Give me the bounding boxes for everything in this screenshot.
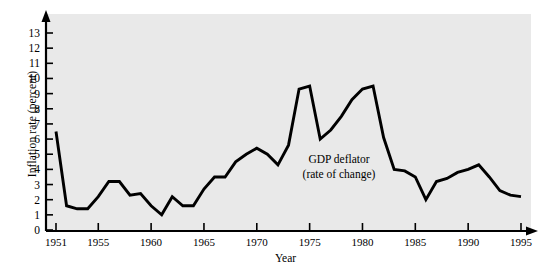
- annotation-line-2: (rate of change): [280, 167, 398, 182]
- x-axis-label-text: Year: [275, 252, 296, 264]
- x-tick-label: 1995: [510, 236, 533, 248]
- chart-svg: 012345678910111213 195119551960196519701…: [0, 0, 547, 274]
- x-tick-marks: [56, 223, 521, 231]
- inflation-chart-figure: 012345678910111213 195119551960196519701…: [0, 0, 547, 274]
- y-tick-label: 0: [34, 224, 40, 236]
- x-tick-label: 1970: [246, 236, 269, 248]
- data-series-line: [56, 86, 521, 215]
- series-annotation: GDP deflator (rate of change): [280, 152, 398, 182]
- annotation-line-1: GDP deflator: [280, 152, 398, 167]
- y-axis: [42, 10, 51, 231]
- x-axis-label: Year: [0, 252, 547, 264]
- x-tick-label: 1955: [87, 236, 110, 248]
- x-tick-label: 1951: [45, 236, 67, 248]
- x-tick-label: 1965: [193, 236, 216, 248]
- x-tick-label: 1980: [351, 236, 374, 248]
- x-axis: [46, 227, 538, 236]
- y-axis-label: Inflation rate (percent): [26, 24, 38, 224]
- x-tick-label: 1990: [457, 236, 480, 248]
- x-tick-label: 1975: [299, 236, 322, 248]
- x-tick-labels: 1951195519601965197019751980198519901995: [45, 236, 533, 248]
- x-tick-label: 1985: [404, 236, 427, 248]
- x-tick-label: 1960: [140, 236, 163, 248]
